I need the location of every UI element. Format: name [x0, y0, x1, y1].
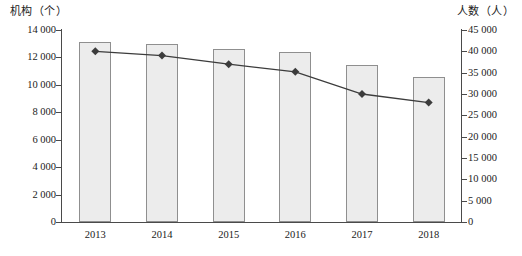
line-marker-2014	[158, 52, 166, 60]
category-label-2018: 2018	[399, 230, 459, 241]
line-marker-2017	[358, 90, 366, 98]
line-marker-2018	[425, 99, 433, 107]
combo-chart: 机构（个） 人数（人） 02 0004 0006 0008 00010 0001…	[0, 0, 522, 256]
category-label-2013: 2013	[65, 230, 125, 241]
category-label-2017: 2017	[332, 230, 392, 241]
line-marker-2016	[291, 68, 299, 76]
line-marker-2013	[91, 47, 99, 55]
category-label-2016: 2016	[265, 230, 325, 241]
line-series	[0, 0, 522, 256]
category-label-2015: 2015	[199, 230, 259, 241]
category-label-2014: 2014	[132, 230, 192, 241]
line-marker-2015	[225, 60, 233, 68]
